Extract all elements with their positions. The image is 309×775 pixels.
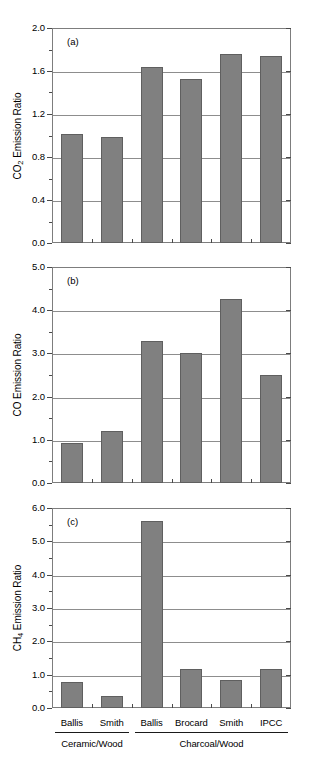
y-tick-major (47, 641, 52, 642)
y-tick-label: 2.0 (4, 636, 45, 646)
y-tick-minor (49, 691, 52, 692)
y-tick-major-right (286, 641, 291, 642)
bar (101, 696, 123, 708)
y-tick-major-right (286, 508, 291, 509)
y-tick-minor (49, 591, 52, 592)
bar (61, 682, 83, 708)
x-tick (132, 704, 133, 708)
y-tick-label: 4.0 (4, 570, 45, 580)
y-tick-major-right (286, 575, 291, 576)
x-tick (172, 704, 173, 708)
y-tick-major-right (286, 541, 291, 542)
group-rule (135, 732, 288, 733)
category-label: IPCC (241, 717, 301, 728)
y-tick-major-right (286, 708, 291, 709)
y-tick-major (47, 508, 52, 509)
y-tick-minor (49, 625, 52, 626)
gridline (53, 642, 290, 643)
gridline (53, 676, 290, 677)
bar (141, 521, 163, 708)
y-tick-major (47, 608, 52, 609)
panel-c: 0.01.02.03.04.05.06.0(c)CH4 Emission Rat… (0, 0, 309, 775)
y-tick-minor (49, 525, 52, 526)
bar (180, 669, 202, 708)
y-tick-label: 1.0 (4, 670, 45, 680)
x-tick (251, 704, 252, 708)
y-tick-minor (49, 558, 52, 559)
x-tick (92, 704, 93, 708)
y-axis-title: CH4 Emission Ratio (12, 508, 23, 708)
y-tick-label: 3.0 (4, 603, 45, 613)
y-tick-major-right (286, 675, 291, 676)
group-rule (55, 732, 129, 733)
bar (260, 669, 282, 708)
group-label: Charcoal/Wood (135, 738, 288, 749)
gridline (53, 576, 290, 577)
y-tick-minor (49, 658, 52, 659)
x-tick (211, 704, 212, 708)
y-tick-major (47, 541, 52, 542)
y-tick-major (47, 675, 52, 676)
plot-area (52, 508, 291, 708)
y-tick-label: 5.0 (4, 536, 45, 546)
gridline (53, 609, 290, 610)
panel-tag: (c) (67, 516, 78, 527)
y-tick-major (47, 575, 52, 576)
y-tick-label: 0.0 (4, 703, 45, 713)
y-tick-major (47, 708, 52, 709)
group-label: Ceramic/Wood (55, 738, 129, 749)
y-tick-label: 6.0 (4, 503, 45, 513)
bar (220, 680, 242, 708)
gridline (53, 542, 290, 543)
emission-ratio-figure: 0.00.40.81.21.62.0(a)CO2 Emission Ratio0… (0, 0, 309, 775)
y-tick-major-right (286, 608, 291, 609)
